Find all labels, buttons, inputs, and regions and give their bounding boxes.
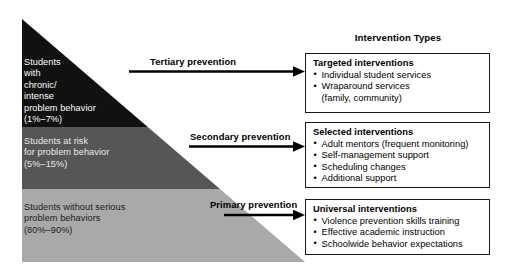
- intervention-list: Adult mentors (frequent monitoring) Self…: [313, 139, 483, 185]
- intervention-types-heading: Intervention Types: [305, 32, 491, 43]
- arrow-tertiary-prevention: [129, 66, 305, 77]
- intervention-box-selected: Selected interventions Adult mentors (fr…: [305, 122, 490, 188]
- intervention-list: Individual student services Wraparound s…: [313, 70, 483, 105]
- arrow-label-tertiary-prevention: Tertiary prevention: [150, 56, 236, 67]
- arrow-label-secondary-prevention: Secondary prevention: [190, 131, 290, 142]
- pyramid-tier-primary-label: Students without serious problem behavio…: [24, 202, 125, 236]
- pyramid-tier-tertiary-label: Students with chronic/ intense problem b…: [24, 57, 96, 125]
- arrow-label-primary-prevention: Primary prevention: [210, 199, 297, 210]
- list-item: Wraparound services: [313, 81, 483, 93]
- intervention-box-title: Universal interventions: [313, 204, 483, 216]
- diagram-canvas: Students with chronic/ intense problem b…: [0, 0, 507, 278]
- list-item: (family, community): [313, 93, 483, 105]
- intervention-box-targeted: Targeted interventions Individual studen…: [305, 53, 490, 113]
- list-item: Individual student services: [313, 70, 483, 82]
- intervention-box-title: Targeted interventions: [313, 58, 483, 70]
- intervention-box-title: Selected interventions: [313, 127, 483, 139]
- list-item: Self-management support: [313, 150, 483, 162]
- list-item: Effective academic instruction: [313, 227, 483, 239]
- list-item: Violence prevention skills training: [313, 216, 483, 228]
- list-item: Schoolwide behavior expectations: [313, 239, 483, 251]
- intervention-box-universal: Universal interventions Violence prevent…: [305, 199, 490, 255]
- intervention-list: Violence prevention skills training Effe…: [313, 216, 483, 251]
- list-item: Additional support: [313, 173, 483, 185]
- list-item: Scheduling changes: [313, 162, 483, 174]
- arrow-secondary-prevention: [189, 141, 305, 152]
- list-item: Adult mentors (frequent monitoring): [313, 139, 483, 151]
- pyramid-tier-secondary-label: Students at risk for problem behavior (5…: [24, 136, 109, 170]
